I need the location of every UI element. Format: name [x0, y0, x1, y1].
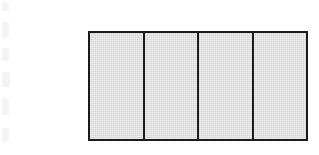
scan-streak-2: [2, 22, 9, 38]
cell-tone-overlay: [199, 33, 252, 139]
scan-streak-6: [2, 128, 9, 142]
figure-canvas: [0, 0, 319, 155]
cell-tone-overlay: [145, 33, 198, 139]
cell-tone-overlay: [254, 33, 307, 139]
rectangle-cell-2: [143, 33, 198, 139]
divided-rectangle: [88, 31, 308, 141]
scan-streak-5: [2, 98, 9, 115]
rectangle-cell-4: [252, 33, 307, 139]
cell-tone-overlay: [90, 33, 143, 139]
rectangle-cell-1: [90, 33, 143, 139]
scan-streak-1: [2, 2, 9, 11]
scan-streak-3: [2, 48, 9, 61]
scan-streak-4: [2, 72, 10, 87]
rectangle-cell-3: [197, 33, 252, 139]
